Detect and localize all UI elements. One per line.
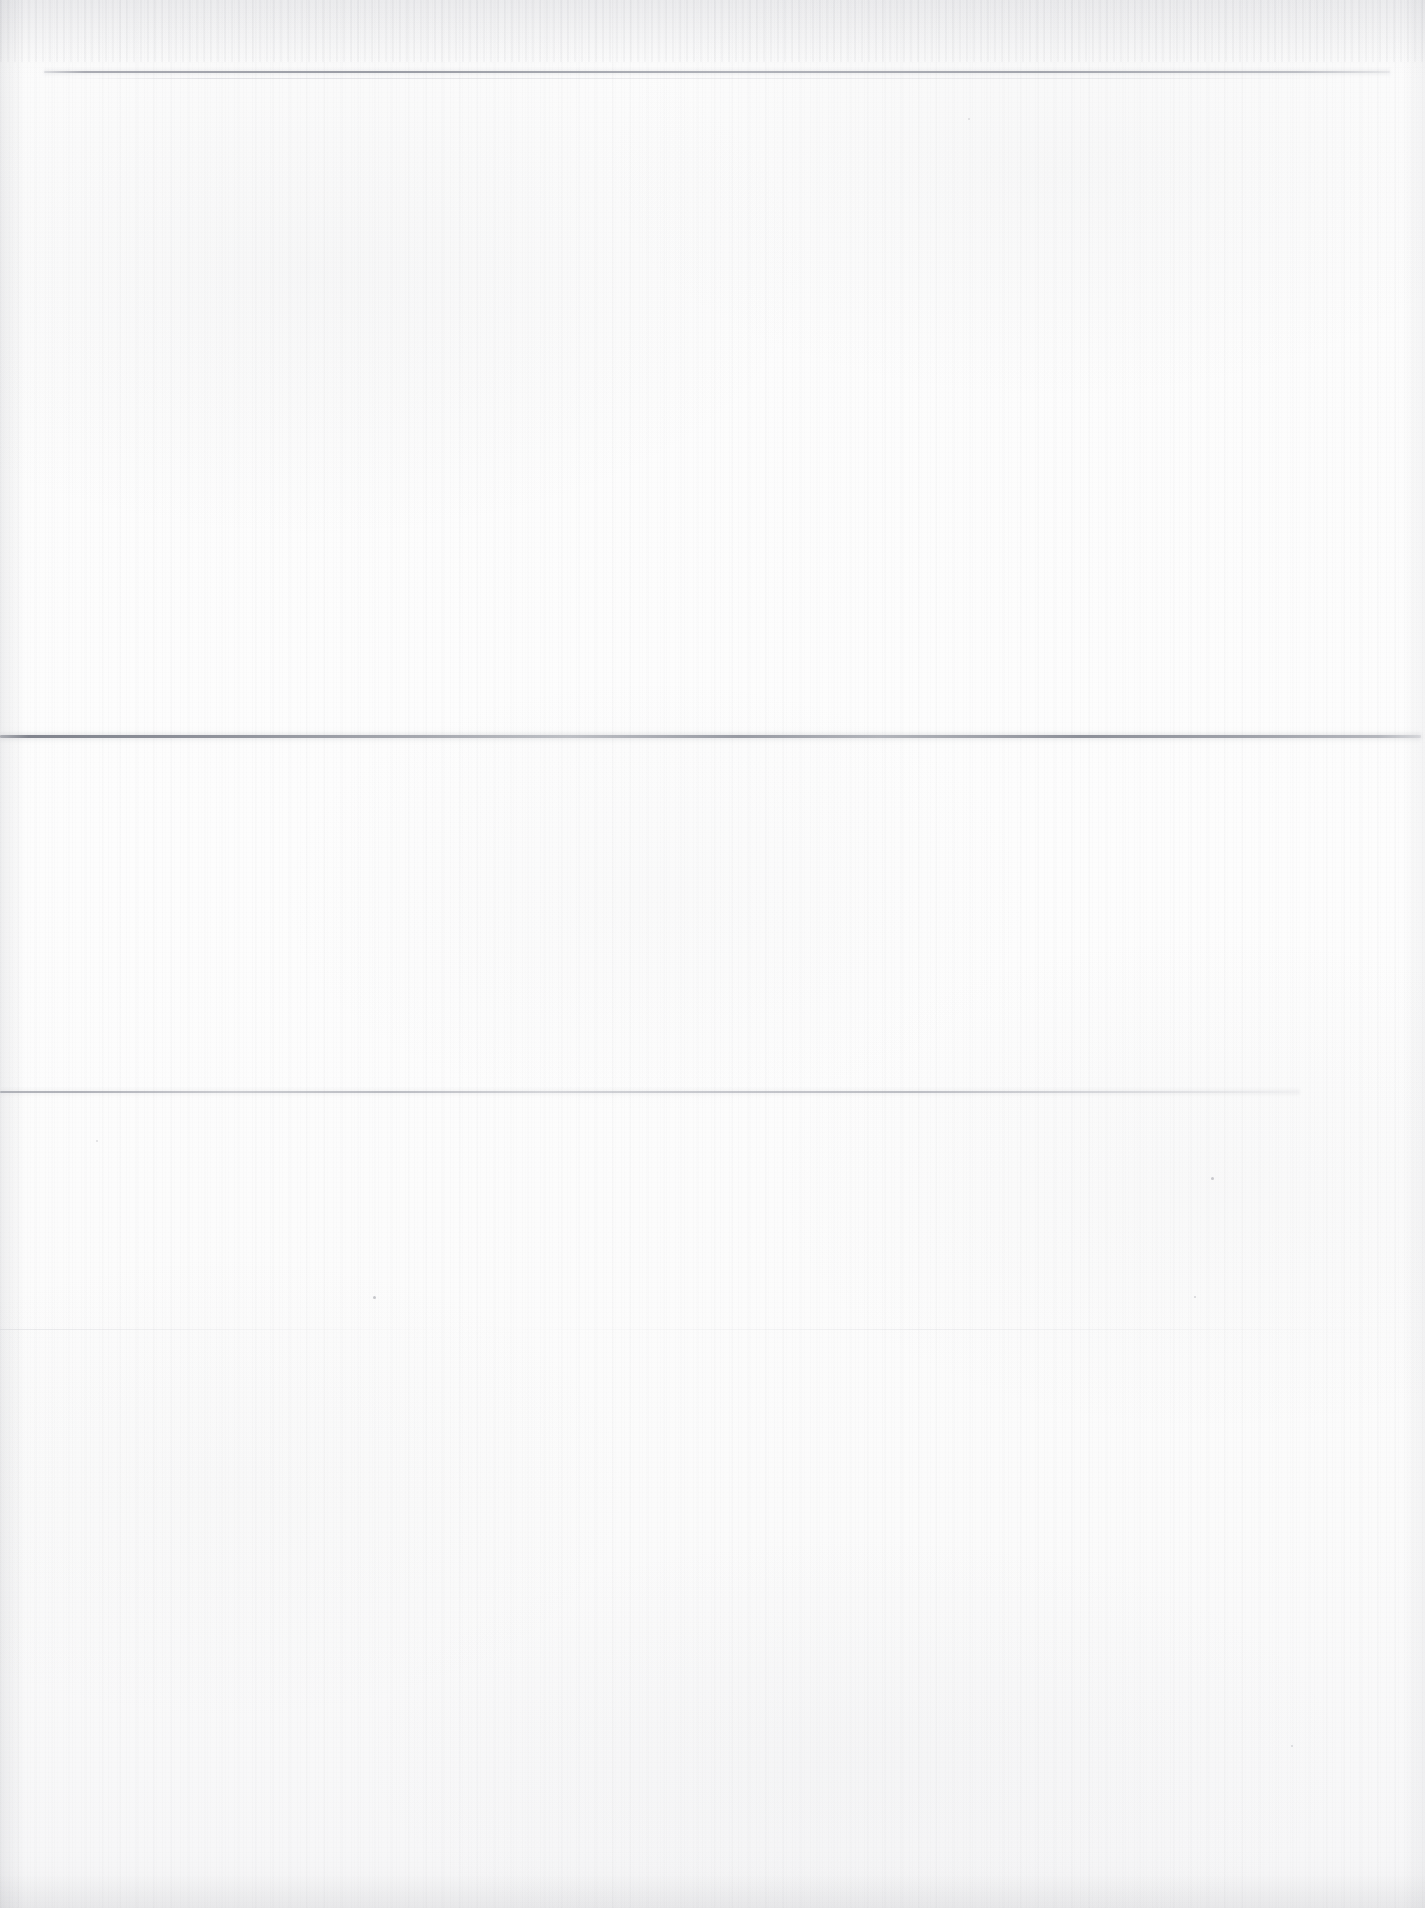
paper-speck <box>968 118 970 120</box>
rule-halo <box>0 1088 1300 1096</box>
scanned-page <box>0 0 1425 1908</box>
middle-content-band <box>0 738 1425 1091</box>
horizontal-rule-middle <box>0 735 1421 738</box>
top-edge-shadow <box>0 0 1425 62</box>
bottom-edge-shadow <box>0 1874 1425 1908</box>
upper-content-band <box>0 73 1425 735</box>
header-margin-band <box>0 0 1425 71</box>
rule-core <box>0 1329 1395 1330</box>
right-edge-shadow <box>1403 0 1425 1908</box>
left-edge-shadow <box>0 0 26 1908</box>
paper-speck <box>373 1296 376 1299</box>
rule-halo <box>44 68 1390 76</box>
paper-speck <box>96 1140 98 1142</box>
rule-core <box>44 71 1390 73</box>
paper-speck <box>1291 1745 1293 1747</box>
rule-core <box>60 78 1340 79</box>
horizontal-rule-lower <box>0 1091 1300 1093</box>
paper-speck <box>1194 1296 1196 1298</box>
horizontal-rule-top <box>44 71 1390 73</box>
rule-core <box>0 735 1421 738</box>
rule-halo <box>0 732 1421 741</box>
horizontal-rule-trace <box>0 1329 1395 1330</box>
rule-core <box>0 1091 1300 1093</box>
paper-speck <box>1211 1177 1214 1180</box>
horizontal-rule-top-secondary <box>60 78 1340 79</box>
lower-content-band <box>0 1093 1425 1908</box>
